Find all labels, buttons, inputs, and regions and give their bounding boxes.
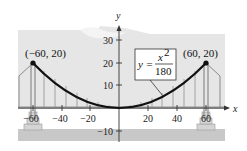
x-tick-neg60: −60	[23, 113, 39, 124]
y-tick-20: 20	[103, 58, 113, 69]
equation-denominator: 180	[155, 65, 172, 77]
equation-exponent: 2	[164, 46, 170, 58]
bridge-parabola-figure: x y 30 20 10 −10 −60 −40 −20 20 40 60 (−…	[0, 0, 247, 151]
equation-numerator: x	[157, 51, 163, 63]
left-endpoint-marker	[30, 60, 35, 65]
x-tick-60: 60	[201, 113, 211, 124]
right-endpoint-marker	[203, 60, 208, 65]
equation-lhs: y =	[137, 58, 153, 70]
x-axis-arrow-icon	[224, 106, 230, 111]
sky-background	[18, 26, 225, 108]
y-tick-30: 30	[103, 35, 113, 46]
x-tick-neg20: −20	[80, 113, 96, 124]
y-tick-neg10: −10	[97, 126, 113, 137]
y-axis-label: y	[115, 10, 121, 21]
x-axis-label: x	[232, 103, 238, 114]
x-tick-neg40: −40	[52, 113, 68, 124]
x-tick-40: 40	[172, 113, 182, 124]
x-tick-20: 20	[143, 113, 153, 124]
left-point-label: (−60, 20)	[25, 47, 66, 60]
right-point-label: (60, 20)	[183, 47, 218, 60]
y-tick-10: 10	[103, 80, 113, 91]
